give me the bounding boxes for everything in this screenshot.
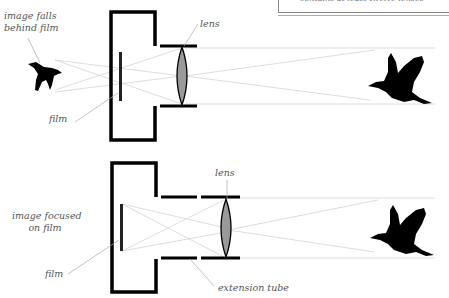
top-camera-body bbox=[111, 12, 155, 140]
top-film bbox=[119, 52, 122, 101]
label-extension-tube: extension tube bbox=[218, 282, 289, 294]
bottom-film bbox=[120, 204, 123, 251]
subject-bird-bottom-icon bbox=[370, 205, 434, 256]
label-bottom-film: film bbox=[45, 268, 63, 280]
label-line: on film bbox=[12, 222, 78, 234]
bottom-lens bbox=[221, 199, 231, 257]
bottom-light-rays bbox=[122, 198, 435, 258]
top-image-leader bbox=[28, 38, 40, 63]
label-line: image focused bbox=[12, 210, 78, 222]
label-top-lens: lens bbox=[200, 18, 220, 30]
label-line: image falls bbox=[4, 10, 48, 22]
label-bottom-lens: lens bbox=[215, 167, 235, 179]
subject-bird-top-icon bbox=[368, 53, 432, 104]
inverted-bird-image-icon bbox=[28, 62, 62, 91]
top-lens-leader bbox=[184, 24, 198, 46]
label-image-focused-on-film: image focused on film bbox=[12, 210, 78, 234]
top-lens bbox=[177, 47, 187, 105]
label-image-falls-behind-film: image falls behind film bbox=[4, 10, 48, 34]
bottom-diagram bbox=[68, 163, 435, 292]
bottom-camera-body bbox=[112, 163, 156, 292]
extension-tube-leader bbox=[190, 259, 214, 286]
label-line: behind film bbox=[4, 22, 48, 34]
label-top-film: film bbox=[49, 113, 67, 125]
top-diagram bbox=[28, 12, 435, 140]
